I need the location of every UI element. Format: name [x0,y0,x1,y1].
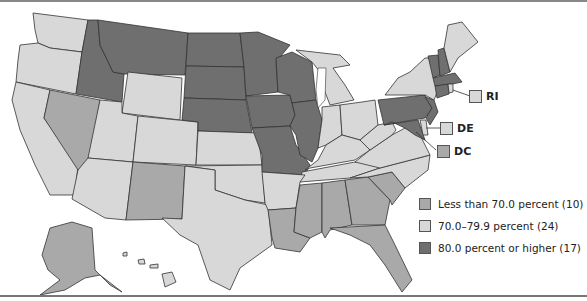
callout-dc: DC [437,145,471,158]
state-ri [448,84,453,93]
de-label: DE [457,122,474,135]
legend-swatch-low [419,198,431,210]
dc-label: DC [454,145,471,158]
de-swatch [440,122,453,135]
state-ct [435,84,449,98]
legend-label-low: Less than 70.0 percent (10) [438,198,583,210]
legend-item-high: 80.0 percent or higher (17) [419,237,583,259]
dc-swatch [437,145,450,158]
legend-swatch-high [419,242,431,254]
legend-item-mid: 70.0–79.9 percent (24) [419,215,583,237]
bottom-rule [0,295,587,297]
legend-item-low: Less than 70.0 percent (10) [419,193,583,215]
state-hi-3 [150,264,158,268]
state-nm [126,162,185,220]
state-ak [40,222,122,295]
state-az [72,158,133,220]
state-lake-mi [316,68,326,108]
state-hi-big [162,272,176,287]
legend-label-high: 80.0 percent or higher (17) [438,242,581,254]
legend: Less than 70.0 percent (10) 70.0–79.9 pe… [419,193,583,259]
state-ia [246,95,295,128]
state-mt [98,20,188,75]
ri-leader [453,90,470,96]
callout-ri: RI [469,90,499,103]
state-ks [196,131,262,165]
state-hi-1 [123,252,127,256]
ri-label: RI [486,90,499,103]
ri-swatch [469,90,482,103]
state-hi-2 [138,259,145,264]
state-me [444,22,478,72]
legend-swatch-mid [419,220,431,232]
state-wy [122,72,182,120]
state-nd [186,33,244,67]
legend-label-mid: 70.0–79.9 percent (24) [438,220,558,232]
state-co [133,116,198,165]
state-sd [184,66,246,100]
state-fl [330,225,412,292]
callout-de: DE [440,122,474,135]
